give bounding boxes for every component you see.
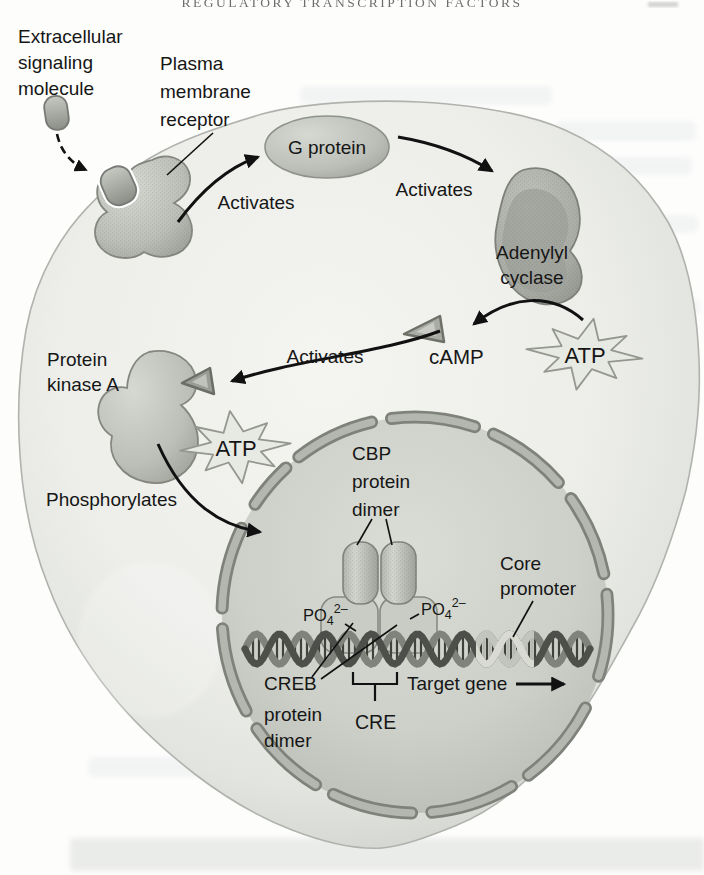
label-g-protein: G protein	[288, 137, 366, 158]
label-creb-protein-dimer: CREB	[264, 673, 317, 694]
label-camp: cAMP	[429, 345, 484, 368]
svg-text:promoter: promoter	[500, 578, 577, 599]
label-phosphorylates: Phosphorylates	[46, 489, 177, 510]
label-atp-left: ATP	[215, 436, 256, 461]
label-adenylyl-cyclase: Adenylyl	[496, 242, 568, 263]
label-activates-3: Activates	[286, 346, 363, 367]
arrow-ligand-binding	[57, 134, 86, 170]
svg-text:membrane: membrane	[160, 81, 251, 102]
label-target-gene: Target gene	[407, 673, 507, 694]
free-ligand-molecule	[43, 94, 71, 131]
svg-text:signaling: signaling	[18, 52, 93, 73]
svg-text:dimer: dimer	[264, 730, 312, 751]
svg-text:dimer: dimer	[352, 499, 400, 520]
label-activates-2: Activates	[395, 179, 472, 200]
svg-text:protein: protein	[352, 471, 410, 492]
svg-text:receptor: receptor	[160, 109, 230, 130]
label-atp-right: ATP	[564, 343, 605, 368]
textbook-page: REGULATORY TRANSCRIPTION FACTORS	[0, 0, 704, 875]
label-protein-kinase-a: Protein	[47, 349, 107, 370]
svg-text:molecule: molecule	[18, 78, 94, 99]
label-plasma-membrane-receptor: Plasma	[160, 53, 224, 74]
label-cbp-protein-dimer: CBP	[352, 443, 391, 464]
running-header: REGULATORY TRANSCRIPTION FACTORS	[181, 0, 522, 10]
svg-text:cyclase: cyclase	[500, 267, 563, 288]
cytoplasm-highlight	[78, 562, 222, 718]
label-extracellular-signaling-molecule: Extracellular	[18, 26, 123, 47]
label-cre: CRE	[355, 711, 396, 733]
page-number-smudge	[648, 2, 678, 7]
svg-text:kinase A: kinase A	[47, 374, 119, 395]
svg-text:protein: protein	[264, 704, 322, 725]
label-core-promoter: Core	[500, 553, 541, 574]
label-activates-1: Activates	[217, 192, 294, 213]
